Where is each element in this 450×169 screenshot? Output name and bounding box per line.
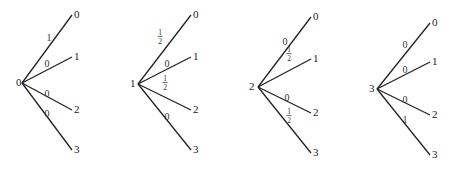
branch-0-to-1: 10	[22, 50, 80, 83]
edge	[377, 23, 430, 89]
target-state-label: 0	[313, 10, 319, 22]
fraction-denominator: 2	[158, 37, 162, 46]
probability-fraction: 12	[163, 74, 168, 92]
branch-1-to-0: 012	[138, 8, 199, 84]
tree-from-state-0: 011020300	[16, 8, 80, 155]
source-state-label: 3	[369, 82, 375, 94]
target-state-label: 0	[193, 8, 199, 20]
target-state-label: 0	[432, 16, 438, 28]
probability-label: 0	[165, 58, 170, 69]
probability-fraction: 12	[287, 107, 292, 125]
edge	[258, 59, 311, 87]
target-state-label: 2	[193, 103, 199, 115]
probability-label: 1	[403, 114, 408, 125]
target-state-label: 3	[193, 143, 199, 155]
target-state-label: 2	[432, 108, 438, 120]
probability-label: 0	[403, 64, 408, 75]
branch-2-to-1: 112	[258, 45, 319, 87]
source-state-label: 1	[130, 77, 136, 89]
probability-label: 0	[285, 92, 290, 103]
probability-label: 0	[403, 94, 408, 105]
fraction-denominator: 2	[287, 116, 291, 125]
branch-3-to-0: 00	[377, 16, 438, 89]
target-state-label: 1	[432, 55, 438, 67]
branch-0-to-2: 20	[22, 83, 80, 115]
source-state-label: 0	[16, 76, 22, 88]
probability-label: 0	[165, 111, 170, 122]
edge	[258, 17, 311, 87]
source-state-label: 2	[249, 80, 255, 92]
target-state-label: 1	[74, 50, 80, 62]
tree-from-state-3: 001020313	[369, 16, 438, 160]
target-state-label: 2	[313, 106, 319, 118]
probability-label: 0	[45, 108, 50, 119]
probability-fraction: 12	[158, 28, 163, 46]
probability-label: 0	[45, 88, 50, 99]
target-state-label: 1	[313, 52, 319, 64]
tree-from-state-1: 01210212301	[130, 8, 199, 155]
branch-0-to-0: 01	[22, 8, 80, 83]
target-state-label: 1	[193, 50, 199, 62]
probability-label: 0	[45, 58, 50, 69]
target-state-label: 3	[432, 148, 438, 160]
branch-3-to-3: 31	[377, 89, 438, 160]
transition-tree-diagram: 0110203000121021230100112203122001020313	[0, 0, 450, 169]
branch-1-to-1: 10	[138, 50, 199, 84]
target-state-label: 3	[313, 146, 319, 158]
target-state-label: 2	[74, 103, 80, 115]
fraction-denominator: 2	[287, 54, 291, 63]
tree-from-state-2: 00112203122	[249, 10, 319, 158]
probability-label: 1	[47, 32, 52, 43]
fraction-denominator: 2	[163, 83, 167, 92]
branch-1-to-3: 30	[138, 84, 199, 155]
branch-3-to-1: 10	[377, 55, 438, 89]
target-state-label: 3	[74, 143, 80, 155]
probability-fraction: 12	[287, 45, 292, 63]
probability-label: 0	[403, 39, 408, 50]
target-state-label: 0	[74, 8, 80, 20]
edge	[22, 15, 72, 83]
branch-0-to-3: 30	[22, 83, 80, 155]
